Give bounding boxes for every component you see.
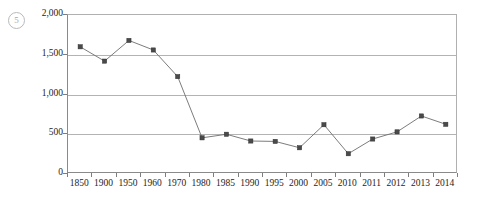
x-axis-tick-label: 1850 [67,176,91,192]
data-point-marker [151,48,155,52]
x-axis-tick-label: 2000 [286,176,310,192]
data-point-marker [297,146,301,150]
x-axis-tick-label: 1980 [189,176,213,192]
x-axis-tick-label: 2011 [360,176,384,192]
x-axis-tick-label: 2014 [433,176,457,192]
data-point-marker [444,122,448,126]
data-point-marker [200,136,204,140]
chart-figure: 5 05001,0001,5002,000 185019001950196019… [0,0,479,209]
y-axis-tick-label: 1,500 [3,49,63,59]
x-axis-tick-label: 2010 [335,176,359,192]
line-series [68,15,458,174]
data-point-marker [322,123,326,127]
y-axis-tick-label: 2,000 [3,9,63,19]
data-point-marker [127,38,131,42]
x-axis-tick-label: 1900 [91,176,115,192]
y-axis-tick-label: 500 [3,129,63,139]
x-axis-tick-label: 1960 [140,176,164,192]
data-point-marker [346,152,350,156]
x-axis-tick [457,173,458,177]
x-axis-tick-label: 2013 [408,176,432,192]
data-point-marker [395,130,399,134]
plot-area [67,14,457,173]
data-point-marker [78,45,82,49]
x-axis-tick-label: 1950 [116,176,140,192]
x-axis-tick-label: 1970 [165,176,189,192]
data-point-marker [249,139,253,143]
x-axis-tick-label: 1995 [262,176,286,192]
data-point-marker [224,132,228,136]
series-markers [78,38,448,155]
data-point-marker [419,114,423,118]
data-point-marker [273,139,277,143]
y-axis-labels: 05001,0001,5002,000 [0,14,63,173]
data-point-marker [102,59,106,63]
x-axis-labels: 1850190019501960197019801985199019952000… [67,176,457,192]
x-axis-tick-label: 1985 [213,176,237,192]
x-axis-tick-label: 2005 [311,176,335,192]
x-axis-tick-label: 1990 [238,176,262,192]
series-polyline [80,40,446,153]
data-point-marker [176,75,180,79]
y-axis-tick-label: 1,000 [3,89,63,99]
x-axis-tick-label: 2012 [384,176,408,192]
data-point-marker [371,137,375,141]
y-axis-tick-label: 0 [3,168,63,178]
